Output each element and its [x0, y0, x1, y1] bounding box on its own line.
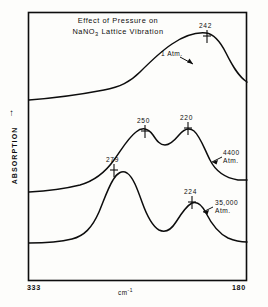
chart-title: Effect of Pressure on NaNO3 Lattice Vibr…	[52, 15, 184, 40]
series-annotation-35000-atm-value: 35,000	[215, 199, 238, 206]
chart-title-line1: Effect of Pressure on	[78, 16, 158, 25]
peak-label-224: 224	[184, 188, 197, 195]
y-axis-arrow-icon: →	[5, 108, 15, 117]
x-axis-label-unit: cm	[118, 289, 128, 296]
series-annotation-4400-atm-unit: Atm.	[223, 157, 239, 164]
figure-canvas: Effect of Pressure on NaNO3 Lattice Vibr…	[0, 0, 268, 307]
series-annotation-4400-atm-value: 4400	[223, 149, 240, 156]
chart-title-line2-pre: NaNO	[72, 27, 95, 36]
peak-label-220: 220	[180, 114, 193, 121]
peak-label-279: 279	[106, 156, 119, 163]
series-curve-1-atm	[29, 30, 247, 100]
x-axis-label-exponent: -1	[128, 288, 133, 293]
peak-label-242: 242	[199, 22, 212, 29]
chart-title-line2-post: Lattice Vibration	[99, 27, 164, 36]
plot-frame	[29, 13, 247, 281]
series-annotation-35000-atm: 35,000 Atm.	[215, 199, 238, 215]
series-annotation-4400-atm: 4400 Atm.	[223, 149, 240, 165]
peak-label-250: 250	[137, 117, 150, 124]
y-axis-label: ABSORPTION	[11, 118, 18, 194]
x-axis-tick-left: 333	[27, 283, 41, 292]
x-axis-label: cm-1	[118, 288, 133, 296]
series-annotation-35000-atm-unit: Atm.	[215, 207, 231, 214]
leader-arrowhead-1-atm	[187, 59, 193, 65]
series-annotation-1-atm: 1 Atm.	[161, 50, 183, 58]
x-axis-tick-right: 180	[232, 283, 246, 292]
series-curve-4400-atm	[29, 122, 247, 192]
